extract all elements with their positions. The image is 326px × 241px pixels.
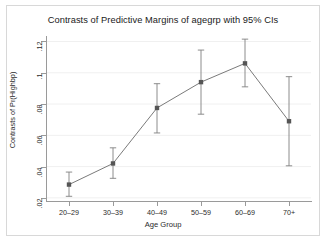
y-tick-label: .02 bbox=[35, 198, 44, 208]
plot-area bbox=[47, 36, 311, 201]
data-point-marker bbox=[67, 182, 71, 186]
x-tick-mark bbox=[201, 202, 202, 206]
data-point-marker bbox=[199, 80, 203, 84]
y-tick-label-container: .02 bbox=[20, 193, 39, 203]
x-tick-mark bbox=[157, 202, 158, 206]
y-tick-label: .1 bbox=[35, 73, 44, 79]
x-tick-label: 40–49 bbox=[147, 208, 167, 217]
y-tick-label: .08 bbox=[35, 105, 44, 115]
x-tick-mark bbox=[289, 202, 290, 206]
x-tick-label: 60–69 bbox=[235, 208, 255, 217]
y-tick-label: .04 bbox=[35, 167, 44, 177]
x-tick-mark bbox=[245, 202, 246, 206]
data-point-marker bbox=[111, 161, 115, 165]
data-point-marker bbox=[287, 119, 291, 123]
y-tick-label-container: .1 bbox=[20, 68, 39, 78]
y-tick-label: .12 bbox=[35, 42, 44, 52]
x-tick-label: 20–29 bbox=[59, 208, 79, 217]
y-axis-title: Contrasts of Pr(Highbp) bbox=[8, 50, 17, 170]
y-tick-label-container: .06 bbox=[20, 130, 39, 140]
x-axis-line bbox=[46, 201, 312, 202]
y-tick-label-container: .04 bbox=[20, 162, 39, 172]
chart-figure: Contrasts of Predictive Margins of agegr… bbox=[0, 0, 326, 241]
data-point-marker bbox=[243, 61, 247, 65]
x-tick-label: 50–59 bbox=[191, 208, 211, 217]
y-axis-title-container: Contrasts of Pr(Highbp) bbox=[8, 50, 20, 170]
y-tick-label: .06 bbox=[35, 136, 44, 146]
x-tick-mark bbox=[113, 202, 114, 206]
plot-svg bbox=[47, 36, 311, 201]
x-tick-label: 30–39 bbox=[103, 208, 123, 217]
y-tick-label-container: .08 bbox=[20, 99, 39, 109]
chart-title: Contrasts of Predictive Margins of agegr… bbox=[0, 15, 326, 25]
x-tick-mark bbox=[69, 202, 70, 206]
y-tick-label-container: .12 bbox=[20, 36, 39, 46]
data-point-marker bbox=[155, 106, 159, 110]
x-axis-title: Age Group bbox=[0, 220, 326, 229]
x-tick-label: 70+ bbox=[283, 208, 295, 217]
